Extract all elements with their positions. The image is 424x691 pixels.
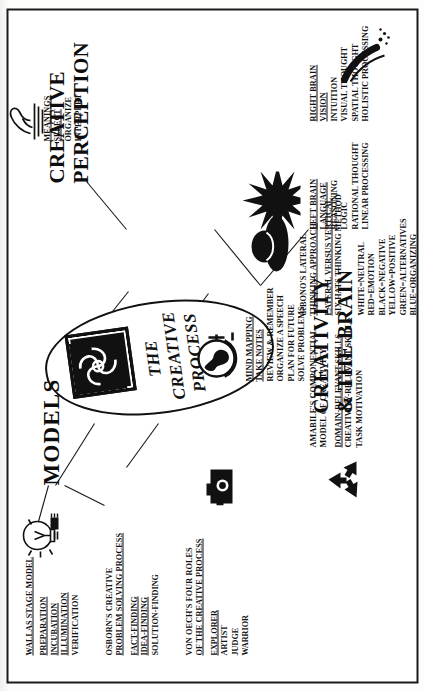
list-item: DOMAIN-RELEVANT SKILLS [333,317,343,447]
list-item: LANGUAGE [318,142,328,229]
list-item: REVIEW & REMEMBER [265,287,275,381]
list-item: RATIONAL THOUGHT [350,142,360,229]
block-list: FACT-FINDING IDEA-FINDING SOLUTION-FINDI… [129,532,160,655]
list-item: SOLVE PROBLEMS [296,287,306,381]
celtic-knot-icon [64,326,136,398]
section-title-models: MODELS [38,378,64,485]
starburst-icon [242,171,300,229]
list-item: RED=EMOTION [366,218,376,315]
list-item: INTUITION [329,25,339,121]
block-left-brain: LEFT BRAIN LANGUAGE REASONING LOGIC RATI… [308,142,370,229]
block-heading-line2: OF THE CREATIVE PROCESS [194,538,204,655]
block-list: SELECT ORGANIZE INTERPRET [52,93,83,141]
list-item: GREEN=ALTERNATIVES [398,218,408,315]
list-item: IDEA-FINDING [139,532,149,655]
list-item: YELLOW=POSITIVE [387,218,397,315]
block-meanings: MEANINGS SELECT ORGANIZE INTERPRET [42,93,84,141]
list-item: VERIFICATION [70,556,80,655]
block-heading-line1: OSBORN'S CREATIVE [104,532,114,655]
block-wallas-stage-model: WALLAS STAGE MODEL PREPARATION INCUBATIO… [24,556,80,655]
block-heading: RIGHT BRAIN [308,25,318,121]
list-item: LINEAR PROCESSING [360,142,370,229]
scanned-poster-image: THE CREATIVE PROCESS MODELS CREATIVITY &… [0,0,424,691]
block-heading: LEFT BRAIN [308,142,318,229]
list-item: BLACK=NEGATIVE [377,218,387,315]
list-item: VISION [318,25,328,121]
list-item: FACT-FINDING [129,532,139,655]
list-item: PLAN FOR FUTURE [286,287,296,381]
list-item: PREPARATION [38,556,48,655]
list-item: WARRIOR [240,538,250,655]
block-von-oech-four-roles: VON OECH'S FOUR ROLES OF THE CREATIVE PR… [184,538,250,655]
list-item: CREATIVITY-RELEVANT SKILLS [343,317,353,447]
hand-sculpture-icon [4,95,44,141]
list-item: ORGANIZE A SPEECH [275,287,285,381]
globe-icon [194,331,242,381]
list-item: WHITE=NEUTRAL [356,218,366,315]
block-list: WHITE=NEUTRAL RED=EMOTION BLACK=NEGATIVE… [356,218,418,315]
block-list: TAKE NOTES REVIEW & REMEMBER ORGANIZE A … [254,287,306,381]
block-list: PREPARATION INCUBATION ILLUMINATION VERI… [38,556,80,655]
page-border: THE CREATIVE PROCESS MODELS CREATIVITY &… [6,8,418,683]
list-item: INTERPRET [73,93,83,141]
list-item: SOLUTION-FINDING [150,532,160,655]
block-heading-line2: PROBLEM SOLVING PROCESS [114,532,124,655]
block-heading-line1: VON OECH'S FOUR ROLES [184,538,194,655]
quill-stroke-icon [340,23,396,83]
list-item: SELECT [52,93,62,141]
list-item: EXPLORER [209,538,219,655]
block-list: LANGUAGE REASONING LOGIC RATIONAL THOUGH… [318,142,370,229]
list-item: ARTIST [219,538,229,655]
block-list: EXPLORER ARTIST JUDGE WARRIOR [209,538,251,655]
diagram-canvas: THE CREATIVE PROCESS MODELS CREATIVITY &… [8,10,416,681]
lightbulb-icon [20,507,64,559]
list-item: TAKE NOTES [254,287,264,381]
list-item: ILLUMINATION [59,556,69,655]
recycle-icon [326,459,364,499]
block-heading-line2: MODEL OF CREATIVITY [318,317,328,447]
camera-icon [204,465,234,505]
list-item: REASONING [329,142,339,229]
list-item: LOGIC [339,142,349,229]
list-item: INCUBATION [49,556,59,655]
list-item: JUDGE [230,538,240,655]
block-heading: WALLAS STAGE MODEL [24,556,34,655]
block-heading: MIND MAPPING [244,287,254,381]
list-item: ORGANIZE [63,93,73,141]
block-amabile-componential-model: AMABILE'S COMPONENTIAL MODEL OF CREATIVI… [308,317,364,447]
rotated-page-canvas: THE CREATIVE PROCESS MODELS CREATIVITY &… [0,0,424,691]
list-item: TASK MOTIVATION [354,317,364,447]
block-six-hats-colors: WHITE=NEUTRAL RED=EMOTION BLACK=NEGATIVE… [356,218,418,315]
block-mind-mapping: MIND MAPPING TAKE NOTES REVIEW & REMEMBE… [244,287,306,381]
block-list: DOMAIN-RELEVANT SKILLS CREATIVITY-RELEVA… [333,317,364,447]
block-heading-line1: AMABILE'S COMPONENTIAL [308,317,318,447]
list-item: BLUE=ORGANIZING [408,218,418,315]
block-osborn-creative-problem-solving: OSBORN'S CREATIVE PROBLEM SOLVING PROCES… [104,532,160,655]
